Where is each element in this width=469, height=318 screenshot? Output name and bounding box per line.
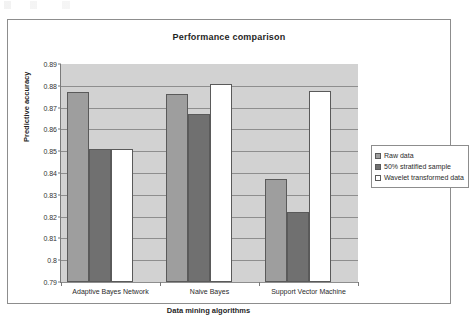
y-axis-tick-label: 0.86 xyxy=(43,126,57,133)
y-axis-tick-label: 0.81 xyxy=(43,235,57,242)
chart-legend: Raw data50% stratified sampleWavelet tra… xyxy=(371,145,469,188)
y-axis-tick-label: 0.8 xyxy=(47,257,57,264)
x-axis-title: Data mining algorithms xyxy=(60,306,357,315)
legend-item[interactable]: Raw data xyxy=(375,150,464,161)
x-axis-tick-mark xyxy=(358,282,359,286)
legend-item-label: Raw data xyxy=(384,152,414,159)
bar[interactable] xyxy=(287,212,309,282)
y-axis-tick-label: 0.88 xyxy=(43,82,57,89)
bar[interactable] xyxy=(166,94,188,282)
legend-item-label: Wavelet transformed data xyxy=(384,174,464,181)
chart-frame: Performance comparison Predictive accura… xyxy=(7,19,451,304)
bar-group xyxy=(259,64,358,282)
x-axis-tick-mark xyxy=(61,282,62,286)
legend-swatch-icon xyxy=(375,153,381,159)
bar-group xyxy=(160,64,259,282)
bar[interactable] xyxy=(188,114,210,282)
scan-artifact xyxy=(4,1,94,9)
bar[interactable] xyxy=(309,91,331,282)
plot-area: 0.890.880.870.860.850.840.830.820.810.80… xyxy=(60,64,358,283)
bar-group xyxy=(61,64,160,282)
y-axis-tick-label: 0.89 xyxy=(43,61,57,68)
y-axis-tick-label: 0.83 xyxy=(43,191,57,198)
chart-title: Performance comparison xyxy=(8,32,450,42)
bar[interactable] xyxy=(67,92,89,282)
y-axis-tick-label: 0.79 xyxy=(43,279,57,286)
legend-item[interactable]: 50% stratified sample xyxy=(375,161,464,172)
y-axis-tick-label: 0.85 xyxy=(43,148,57,155)
y-axis-tick-label: 0.84 xyxy=(43,170,57,177)
legend-item[interactable]: Wavelet transformed data xyxy=(375,172,464,183)
x-axis-tick-mark xyxy=(160,282,161,286)
x-axis-tick-mark xyxy=(259,282,260,286)
bar[interactable] xyxy=(210,84,232,282)
x-axis-category-label: Adaptive Bayes Network xyxy=(72,288,148,295)
y-axis-title: Predictive accuracy xyxy=(22,72,31,142)
x-axis-category-label: Support Vector Machine xyxy=(271,288,346,295)
y-axis-tick-label: 0.82 xyxy=(43,213,57,220)
legend-swatch-icon xyxy=(375,175,381,181)
bar[interactable] xyxy=(265,179,287,282)
bar[interactable] xyxy=(89,149,111,282)
y-axis-tick-label: 0.87 xyxy=(43,104,57,111)
legend-item-label: 50% stratified sample xyxy=(384,163,451,170)
bar[interactable] xyxy=(111,149,133,282)
x-axis-category-label: Naive Bayes xyxy=(190,288,229,295)
gridline xyxy=(61,282,358,283)
legend-swatch-icon xyxy=(375,164,381,170)
